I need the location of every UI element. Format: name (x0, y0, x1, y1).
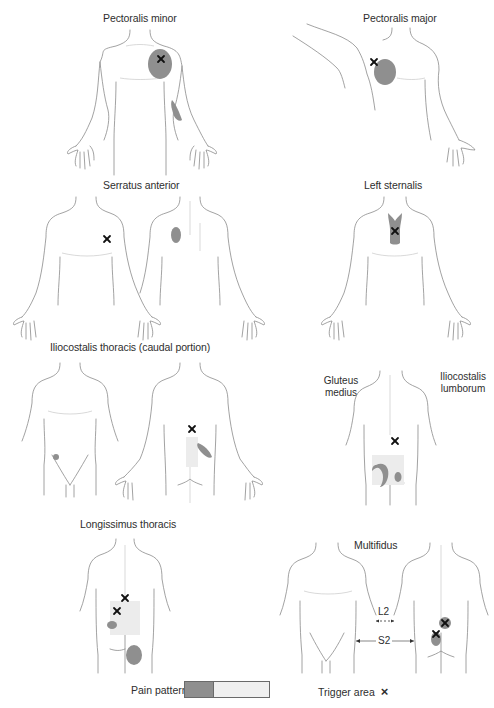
panel-pectoralis-major: Pectoralis major (247, 0, 494, 175)
panel-gluteus-iliocostalis-lumborum: Gluteus medius Iliocostalis lumborum (280, 335, 494, 505)
pain-region-buttock (126, 645, 142, 665)
pain-region-lumbar (197, 443, 212, 458)
body-front-arm-raised-figure (247, 0, 494, 175)
legend-trigger-area: Trigger area × (318, 684, 388, 699)
panel-iliocostalis-thoracis: Iliocostalis thoracis (caudal portion) (0, 335, 280, 505)
pain-region-forearm (171, 100, 182, 121)
legend-pain-pattern-swatch (184, 681, 270, 698)
panel-multifidus: Multifidus L2 S2 (260, 505, 494, 675)
pain-region-abdomen (53, 454, 59, 460)
body-front-figure (280, 175, 494, 335)
trigger-point-icon (189, 426, 195, 432)
trigger-point-icon (371, 59, 377, 65)
pain-region-scapula (171, 227, 181, 243)
label-s2: S2 (376, 635, 392, 646)
body-back-figure (280, 335, 494, 505)
pain-region-lumbar (107, 621, 117, 629)
trigger-point-icon (104, 236, 110, 242)
trigger-x-icon: × (381, 684, 389, 699)
panel-left-sternalis: Left sternalis (280, 175, 494, 335)
pain-region-sacral (395, 472, 402, 482)
body-front-back-figures (260, 505, 494, 675)
pain-region-sternum (388, 213, 402, 245)
legend-pain-dark-swatch (185, 682, 214, 697)
panel-longissimus-thoracis: Longissimus thoracis (0, 505, 260, 675)
panel-serratus-anterior: Serratus anterior (0, 175, 280, 335)
body-back-figure (0, 505, 260, 675)
body-front-back-figures (0, 335, 280, 505)
body-front-figure (0, 0, 247, 175)
label-l2: L2 (378, 606, 389, 617)
panel-pectoralis-minor: Pectoralis minor (0, 0, 247, 175)
pain-region-chest (374, 59, 396, 85)
trigger-point-icon (392, 438, 398, 444)
legend-trigger-area-label: Trigger area (318, 686, 375, 698)
legend-pain-pattern-label: Pain pattern (131, 684, 188, 696)
body-front-back-figures (0, 175, 280, 335)
pain-region-chest (148, 49, 172, 79)
